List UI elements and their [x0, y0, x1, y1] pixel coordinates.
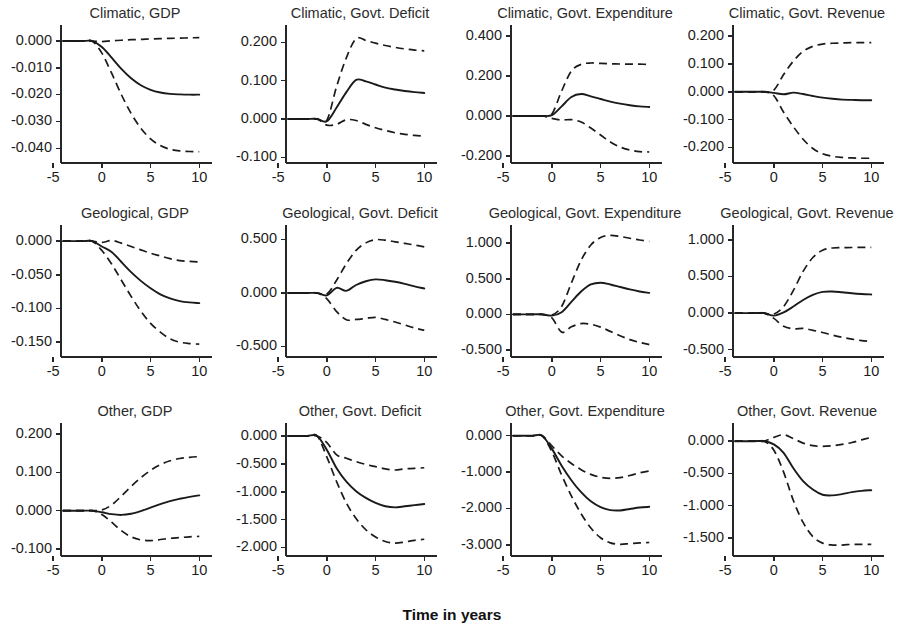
x-tick-label: 10 [191, 363, 207, 379]
y-tick-label: 0.200 [466, 67, 502, 83]
y-tick-label: 0.000 [466, 305, 502, 321]
x-tick-label: -5 [272, 363, 285, 379]
y-tick-label: 0.100 [688, 55, 724, 71]
y-tick-label: 0.000 [16, 32, 52, 48]
y-tick-label: -1.000 [461, 463, 502, 479]
y-tick-label: -0.500 [236, 337, 277, 353]
x-tick-label: 10 [863, 562, 879, 578]
x-tick-label: 0 [770, 169, 778, 185]
x-tick-label: 0 [323, 169, 331, 185]
x-tick-label: 10 [641, 562, 657, 578]
x-tick-label: 5 [597, 169, 605, 185]
x-tick-label: 10 [863, 169, 879, 185]
x-tick-label: -5 [47, 169, 60, 185]
y-tick-label: -0.500 [683, 341, 724, 357]
x-tick-label: 0 [548, 169, 556, 185]
y-tick-label: 0.000 [241, 284, 277, 300]
y-tick-label: 1.000 [466, 234, 502, 250]
x-tick-label: 5 [819, 363, 827, 379]
y-tick-label: 0.000 [688, 432, 724, 448]
panel-title: Geological, GDP [81, 205, 189, 221]
x-tick-label: 0 [770, 562, 778, 578]
x-tick-label: 10 [641, 363, 657, 379]
x-tick-label: 10 [191, 562, 207, 578]
panel-title: Climatic, Govt. Expenditure [497, 5, 673, 21]
x-tick-label: -5 [497, 169, 510, 185]
y-tick-label: -1.000 [683, 497, 724, 513]
y-tick-label: 1.000 [688, 231, 724, 247]
x-tick-label: 0 [323, 363, 331, 379]
x-tick-label: 10 [191, 169, 207, 185]
x-tick-label: -5 [47, 562, 60, 578]
y-tick-label: -0.500 [236, 455, 277, 471]
y-tick-label: -0.100 [11, 299, 52, 315]
y-tick-label: 0.400 [466, 27, 502, 43]
y-tick-label: -1.000 [236, 483, 277, 499]
x-tick-label: 5 [147, 169, 155, 185]
y-tick-label: -3.000 [461, 536, 502, 552]
y-tick-label: -1.500 [236, 511, 277, 527]
y-tick-label: -0.040 [11, 139, 52, 155]
y-tick-label: 0.000 [688, 304, 724, 320]
panel-title: Geological, Govt. Expenditure [489, 205, 682, 221]
y-tick-label: -0.020 [11, 85, 52, 101]
y-tick-label: -0.100 [683, 111, 724, 127]
panel-title: Climatic, Govt. Revenue [729, 5, 885, 21]
x-tick-label: -5 [719, 363, 732, 379]
panel-title: Other, Govt. Deficit [299, 403, 422, 419]
x-tick-label: 10 [416, 562, 432, 578]
panel-title: Climatic, GDP [89, 5, 180, 21]
y-tick-label: 0.000 [16, 232, 52, 248]
y-tick-label: -2.000 [461, 499, 502, 515]
y-tick-label: -0.030 [11, 112, 52, 128]
y-tick-label: -0.100 [236, 148, 277, 164]
y-tick-label: 0.000 [466, 427, 502, 443]
y-tick-label: 0.000 [241, 427, 277, 443]
y-tick-label: 0.000 [688, 83, 724, 99]
y-tick-label: 0.500 [241, 230, 277, 246]
x-tick-label: 5 [372, 562, 380, 578]
x-tick-label: 5 [819, 562, 827, 578]
y-tick-label: 0.200 [16, 425, 52, 441]
x-tick-label: -5 [497, 562, 510, 578]
x-tick-label: 5 [597, 363, 605, 379]
x-tick-label: 5 [819, 169, 827, 185]
x-tick-label: -5 [272, 169, 285, 185]
impulse-response-figure: Climatic, GDP0.000-0.010-0.020-0.030-0.0… [0, 0, 905, 630]
y-tick-label: -0.500 [683, 464, 724, 480]
x-tick-label: 0 [548, 363, 556, 379]
x-tick-label: -5 [719, 562, 732, 578]
x-tick-label: -5 [497, 363, 510, 379]
panel-title: Other, GDP [98, 403, 173, 419]
y-tick-label: -0.200 [683, 138, 724, 154]
panel-title: Other, Govt. Revenue [737, 403, 877, 419]
x-tick-label: 10 [863, 363, 879, 379]
panel-title: Other, Govt. Expenditure [505, 403, 665, 419]
y-tick-label: 0.500 [688, 267, 724, 283]
y-tick-label: 0.100 [241, 72, 277, 88]
y-tick-label: 0.000 [466, 107, 502, 123]
y-tick-label: 0.500 [466, 270, 502, 286]
x-tick-label: 0 [323, 562, 331, 578]
x-tick-label: 0 [98, 363, 106, 379]
x-tick-label: 5 [597, 562, 605, 578]
x-tick-label: 0 [98, 562, 106, 578]
x-tick-label: 0 [548, 562, 556, 578]
x-tick-label: 10 [416, 169, 432, 185]
y-tick-label: -0.200 [461, 147, 502, 163]
x-tick-label: 10 [416, 363, 432, 379]
y-tick-label: -0.100 [11, 540, 52, 556]
x-tick-label: -5 [719, 169, 732, 185]
panel-title: Geological, Govt. Revenue [720, 205, 893, 221]
x-tick-label: 0 [98, 169, 106, 185]
x-tick-label: 5 [372, 169, 380, 185]
x-axis-caption: Time in years [403, 606, 502, 623]
x-tick-label: 0 [770, 363, 778, 379]
y-tick-label: -0.010 [11, 59, 52, 75]
y-tick-label: 0.100 [16, 463, 52, 479]
x-tick-label: 5 [147, 562, 155, 578]
y-tick-label: 0.000 [16, 502, 52, 518]
y-tick-label: 0.200 [241, 33, 277, 49]
x-tick-label: -5 [47, 363, 60, 379]
y-tick-label: -1.500 [683, 529, 724, 545]
